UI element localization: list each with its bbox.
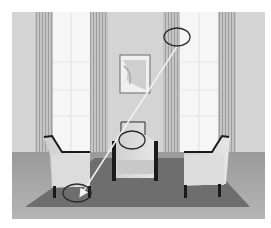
room-scene-image bbox=[0, 0, 271, 228]
curtain-right-outer bbox=[218, 12, 236, 154]
curtain-left-outer bbox=[35, 12, 53, 154]
curtain-left-inner bbox=[90, 12, 108, 154]
left-window bbox=[53, 12, 90, 152]
right-window bbox=[180, 12, 218, 152]
framed-picture bbox=[120, 55, 150, 93]
